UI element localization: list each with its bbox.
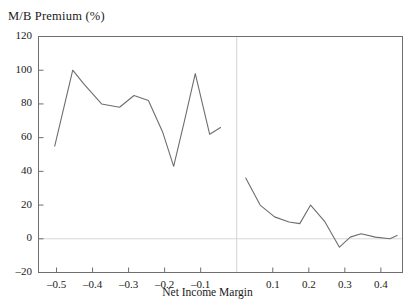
plot-frame	[39, 37, 403, 273]
y-tick-label: 40	[0, 164, 32, 176]
data-series-group	[55, 70, 397, 247]
y-tick-label: 0	[0, 231, 32, 243]
y-tick-label: 100	[0, 63, 32, 75]
series-line-0	[55, 70, 221, 166]
y-tick-label: 60	[0, 130, 32, 142]
chart-figure: M/B Premium (%) –20020406080100120 –0.5–…	[0, 0, 415, 307]
y-tick-label: –20	[0, 265, 32, 277]
plot-area	[0, 0, 415, 307]
x-axis-title: Net Income Margin	[0, 286, 415, 298]
tickmarks-group	[39, 37, 381, 273]
series-line-1	[246, 178, 397, 247]
y-tick-label: 120	[0, 29, 32, 41]
y-tick-label: 20	[0, 198, 32, 210]
y-tick-label: 80	[0, 96, 32, 108]
gridlines-group	[39, 37, 403, 273]
